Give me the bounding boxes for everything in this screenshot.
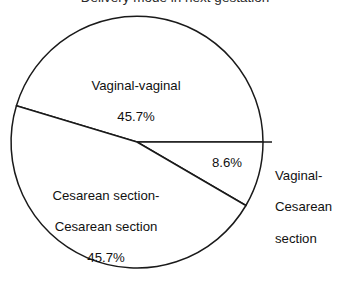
- slice-label-cesarean-cesarean-percent: 45.7%: [87, 250, 124, 265]
- slice-label-vaginal-cesarean-percent: 8.6%: [196, 155, 258, 171]
- slice-label-vaginal-cesarean-line3: section: [275, 231, 317, 246]
- slice-label-vaginal-vaginal-name: Vaginal-vaginal: [91, 78, 180, 93]
- slice-label-vaginal-vaginal-percent: 45.7%: [117, 109, 154, 124]
- slice-label-cesarean-cesarean-line2: Cesarean section: [55, 219, 158, 234]
- slice-label-vaginal-cesarean-line1: Vaginal-: [275, 168, 322, 183]
- slice-label-vaginal-cesarean-line2: Cesarean: [275, 199, 332, 214]
- slice-label-cesarean-cesarean: Cesarean section- Cesarean section 45.7%: [18, 172, 194, 265]
- slice-label-vaginal-cesarean-name: Vaginal- Cesarean section: [275, 152, 349, 247]
- pie-chart-figure: Delivery mode in next gestation Vaginal-…: [0, 0, 350, 285]
- slice-label-vaginal-vaginal: Vaginal-vaginal 45.7%: [38, 62, 234, 124]
- slice-label-cesarean-cesarean-line1: Cesarean section-: [52, 188, 159, 203]
